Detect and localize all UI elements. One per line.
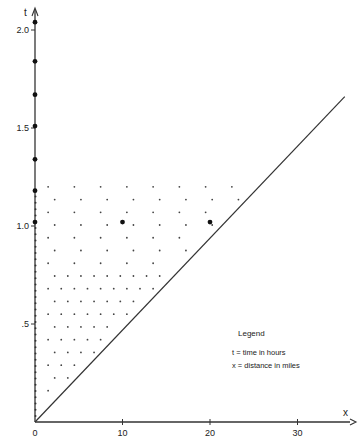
large-point xyxy=(120,220,125,225)
lattice-dot xyxy=(47,186,49,188)
large-point xyxy=(33,188,38,193)
lattice-dot xyxy=(73,313,75,315)
lattice-dot xyxy=(47,339,49,341)
lattice-dot xyxy=(100,313,102,315)
lattice-dot xyxy=(87,339,89,341)
y-tick-label: .5 xyxy=(21,319,29,329)
lattice-dot xyxy=(126,313,128,315)
lattice-dot xyxy=(67,301,69,303)
lattice-dot xyxy=(47,390,49,392)
lattice-dot xyxy=(67,377,69,379)
lattice-dot xyxy=(152,288,154,290)
lattice-dot xyxy=(146,275,148,277)
legend-title: Legend xyxy=(238,329,265,338)
lattice-dot xyxy=(126,288,128,290)
lattice-dot xyxy=(152,186,154,188)
lattice-dot xyxy=(211,224,213,226)
y-axis-label: t xyxy=(24,7,27,18)
lattice-dot xyxy=(87,288,89,290)
lattice-dot xyxy=(159,250,161,252)
lattice-dot xyxy=(238,199,240,201)
large-point xyxy=(33,157,38,162)
large-point xyxy=(33,92,38,97)
lattice-dot xyxy=(67,352,69,354)
legend: Legend t = time in hours x = distance in… xyxy=(232,329,300,370)
lattice-dot xyxy=(106,199,108,201)
lattice-dot xyxy=(159,224,161,226)
lattice-dot xyxy=(80,224,82,226)
y-tick-label: 1.0 xyxy=(16,221,29,231)
lattice-dot xyxy=(80,326,82,328)
lattice-dot xyxy=(106,326,108,328)
lattice-dot xyxy=(73,237,75,239)
lattice-dot xyxy=(93,352,95,354)
lattice-dot xyxy=(54,224,56,226)
lattice-dot xyxy=(47,262,49,264)
chart: 0102030.51.01.52.0xt Legend t = time in … xyxy=(0,0,359,445)
lattice-dot xyxy=(73,288,75,290)
lattice-dot xyxy=(54,301,56,303)
lattice-dot xyxy=(185,250,187,252)
lattice-dot xyxy=(80,275,82,277)
large-point xyxy=(33,20,38,25)
lattice-dot xyxy=(100,211,102,213)
axes xyxy=(31,8,356,425)
large-point xyxy=(33,124,38,129)
lattice-dot xyxy=(80,301,82,303)
lattice-dot xyxy=(87,313,89,315)
legend-entry-t: t = time in hours xyxy=(232,348,286,357)
lattice-dot xyxy=(126,262,128,264)
lattice-dot xyxy=(185,224,187,226)
lattice-dot xyxy=(126,237,128,239)
lattice-dot xyxy=(73,186,75,188)
lattice-dot xyxy=(126,186,128,188)
lattice-dot xyxy=(47,364,49,366)
lattice-dot xyxy=(178,186,180,188)
lattice-dot xyxy=(54,199,56,201)
lattice-dot xyxy=(106,301,108,303)
lattice-dot xyxy=(100,237,102,239)
lattice-dot xyxy=(152,262,154,264)
lattice-dot xyxy=(178,237,180,239)
lattice-dot xyxy=(73,262,75,264)
y-tick-label: 2.0 xyxy=(16,25,29,35)
lattice-dot xyxy=(159,275,161,277)
lattice-dot xyxy=(67,326,69,328)
axis-labels: 0102030.51.01.52.0xt xyxy=(16,7,348,438)
lattice-dot xyxy=(205,186,207,188)
large-point xyxy=(208,220,213,225)
lattice-dot xyxy=(47,211,49,213)
lattice-dot xyxy=(152,237,154,239)
lattice-dot xyxy=(60,313,62,315)
large-points xyxy=(33,20,213,225)
lattice-dot xyxy=(113,313,115,315)
y-tick-label: 1.5 xyxy=(16,123,29,133)
lattice-dot xyxy=(106,224,108,226)
lattice-dot xyxy=(54,250,56,252)
lattice-dot xyxy=(100,339,102,341)
lattice-dot xyxy=(133,224,135,226)
lattice-dot xyxy=(133,275,135,277)
lattice-dot xyxy=(80,199,82,201)
lattice-dot xyxy=(93,301,95,303)
lattice-dot xyxy=(54,326,56,328)
x-tick-label: 0 xyxy=(32,428,37,438)
lattice-dot xyxy=(100,262,102,264)
lattice-dot xyxy=(185,199,187,201)
lattice-dot xyxy=(54,377,56,379)
legend-entry-x: x = distance in miles xyxy=(232,361,300,370)
lattice-dot xyxy=(159,199,161,201)
lattice-dot xyxy=(47,313,49,315)
x-tick-label: 20 xyxy=(205,428,215,438)
lattice-dot xyxy=(126,211,128,213)
lattice-dot xyxy=(67,275,69,277)
lattice-dot xyxy=(80,250,82,252)
lattice-dot xyxy=(60,339,62,341)
lattice-dot xyxy=(139,288,141,290)
lattice-dot xyxy=(47,288,49,290)
lattice-dot xyxy=(47,237,49,239)
x-axis-arrow-icon xyxy=(350,419,356,425)
lattice-dot xyxy=(80,352,82,354)
lattice-dot xyxy=(113,288,115,290)
x-axis-label: x xyxy=(343,407,348,418)
